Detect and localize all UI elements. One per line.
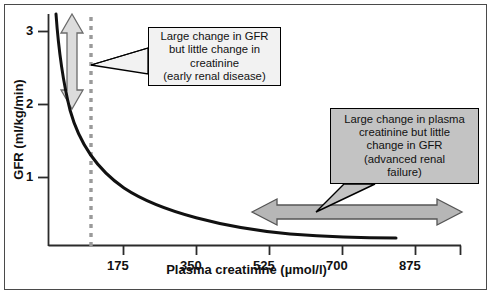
y-axis-title: GFR (ml/kg/min) (11, 50, 26, 210)
early-callout-text: Large change in GFR but little change in… (156, 30, 272, 83)
advanced-renal-failure-callout: Large change in plasma creatinine but li… (330, 108, 479, 184)
x-axis-title: Plasma creatinine (µmol/l) (0, 262, 493, 277)
advanced-callout-line-1: Large change in plasma (344, 113, 465, 126)
early-callout-line-4: (early renal disease) (160, 70, 268, 83)
y-axis (38, 14, 49, 246)
early-callout-pointer (91, 48, 148, 74)
early-callout-line-1: Large change in GFR (160, 30, 268, 43)
early-renal-disease-callout: Large change in GFR but little change in… (148, 27, 281, 86)
y-tick-label-2: 2 (26, 96, 33, 111)
x-axis (49, 246, 462, 256)
horizontal-double-arrow (252, 199, 462, 225)
figure-root: 3 2 1 175 350 525 700 875 Plasma creatin… (0, 0, 493, 296)
y-tick-label-3: 3 (26, 23, 33, 38)
vertical-double-arrow (61, 14, 83, 109)
y-tick-label-1: 1 (26, 169, 33, 184)
early-callout-line-2: but little change in (160, 43, 268, 56)
advanced-callout-line-4: (advanced renal (344, 153, 465, 166)
early-callout-line-3: creatinine (160, 57, 268, 70)
advanced-callout-line-5: failure) (344, 166, 465, 179)
advanced-callout-line-3: change in GFR (344, 139, 465, 152)
advanced-callout-line-2: creatinine but little (344, 126, 465, 139)
advanced-callout-text: Large change in plasma creatinine but li… (340, 113, 469, 179)
